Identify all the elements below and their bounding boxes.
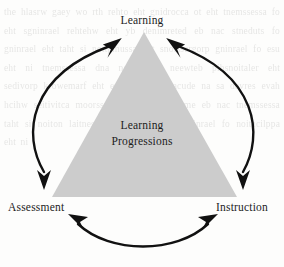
arc-bottom-path bbox=[78, 224, 208, 247]
center-label-line-1: Learning bbox=[0, 118, 284, 134]
arrowhead-toward-assessment-bottom bbox=[68, 214, 88, 230]
triangle-center-label: Learning Progressions bbox=[0, 118, 284, 149]
vertex-label-assessment: Assessment bbox=[8, 201, 64, 214]
vertex-label-learning: Learning bbox=[0, 14, 284, 27]
vertex-label-instruction: Instruction bbox=[216, 201, 268, 214]
center-label-line-2: Progressions bbox=[0, 134, 284, 150]
figure-root: the hlasrw gaey wo rth rehto eht gnidroc… bbox=[0, 0, 284, 267]
arrow-assessment-instruction bbox=[68, 214, 218, 247]
arrowhead-toward-instruction-bottom bbox=[198, 214, 218, 230]
triangle-shape bbox=[52, 32, 237, 197]
